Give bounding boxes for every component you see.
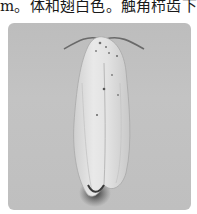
moth-illustration xyxy=(8,23,191,210)
moth-photo xyxy=(8,23,191,210)
body-text-line: m。体和翅白色。触角栉齿下方 xyxy=(0,0,197,15)
